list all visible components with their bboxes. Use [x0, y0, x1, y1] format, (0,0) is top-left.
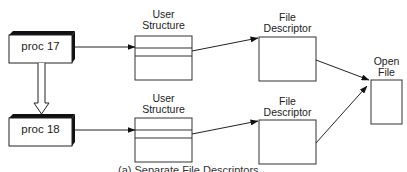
fork-arrow: [34, 63, 49, 114]
file-descriptor-top-label: File Descriptor: [255, 12, 320, 34]
file-descriptor-bottom-label: File Descriptor: [255, 96, 320, 118]
user-structure-top-label: User Structure: [133, 9, 194, 31]
user-structure-top-line2: Structure: [133, 20, 194, 31]
arrow-fd-top-to-open-file: [316, 60, 369, 80]
user-structure-bottom-line2: Structure: [133, 104, 194, 115]
diagram-canvas: [0, 0, 407, 172]
user-structure-bottom-box: [135, 118, 192, 162]
file-descriptor-bottom-box: [259, 120, 316, 164]
figure-caption: (a) Separate File Descriptors: [118, 164, 259, 172]
user-structure-top-box: [135, 36, 192, 80]
file-descriptor-top-box: [259, 37, 316, 81]
open-file-box: [371, 80, 402, 124]
arrow-fd-bottom-to-open-file: [316, 86, 367, 143]
user-structure-bottom-label: User Structure: [133, 93, 194, 115]
arrow-user-structure-top-to-fd: [192, 38, 258, 51]
file-descriptor-bottom-line2: Descriptor: [255, 107, 320, 118]
open-file-line2: File: [366, 67, 407, 78]
proc-17-label: proc 17: [9, 40, 72, 52]
file-descriptor-top-line2: Descriptor: [255, 23, 320, 34]
proc-18-label: proc 18: [9, 123, 72, 135]
arrow-user-structure-bottom-to-fd: [192, 121, 258, 134]
open-file-label: Open File: [366, 56, 407, 78]
